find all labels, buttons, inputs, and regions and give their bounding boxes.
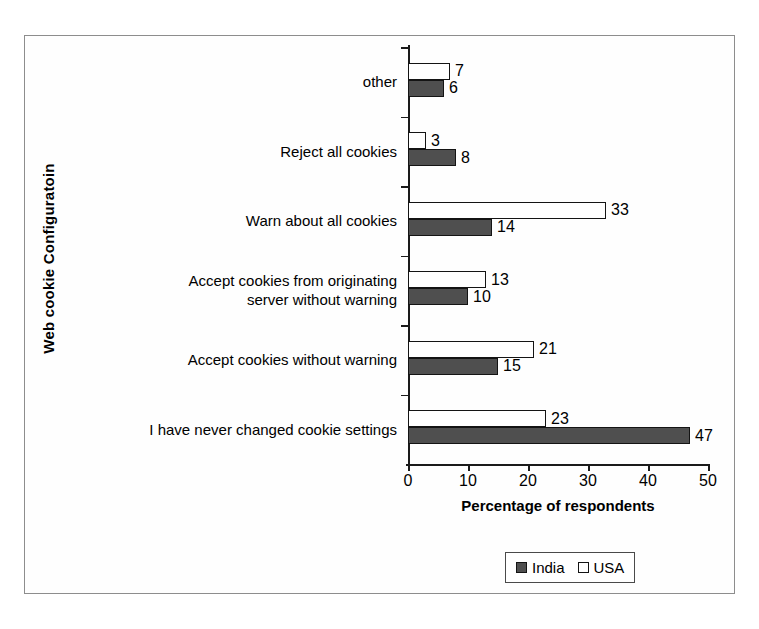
category-label: Accept cookies from originating server w… xyxy=(67,271,397,309)
legend-item-usa: USA xyxy=(578,559,625,576)
legend-label-usa: USA xyxy=(594,559,625,576)
bar-india: 8 xyxy=(408,149,456,166)
bar-india: 14 xyxy=(408,219,492,236)
x-axis-tick xyxy=(588,464,590,471)
bar-value-india: 8 xyxy=(461,149,470,167)
bar-usa: 21 xyxy=(408,341,534,358)
x-axis-tick xyxy=(408,464,410,471)
x-axis-tick-label: 0 xyxy=(388,472,428,490)
y-axis-tick xyxy=(401,395,408,397)
y-axis-title: Web cookie Configuratoin xyxy=(40,149,57,369)
category-group: I have never changed cookie settings2347 xyxy=(408,395,708,465)
category-group: other76 xyxy=(408,47,708,117)
y-axis-tick xyxy=(401,47,408,49)
x-axis-tick-label: 20 xyxy=(508,472,548,490)
bar-usa: 23 xyxy=(408,410,546,427)
legend-swatch-usa xyxy=(578,562,589,573)
bar-value-india: 15 xyxy=(503,357,521,375)
category-group: Warn about all cookies3314 xyxy=(408,186,708,256)
x-axis-tick-label: 30 xyxy=(568,472,608,490)
bar-india: 6 xyxy=(408,80,444,97)
bar-india: 10 xyxy=(408,288,468,305)
x-axis-tick xyxy=(528,464,530,471)
bar-usa: 13 xyxy=(408,271,486,288)
x-axis-tick xyxy=(708,464,710,471)
category-group: Reject all cookies38 xyxy=(408,117,708,187)
category-label: Accept cookies without warning xyxy=(67,350,397,369)
bar-value-usa: 21 xyxy=(539,340,557,358)
bar-value-usa: 3 xyxy=(431,132,440,150)
x-axis-tick xyxy=(468,464,470,471)
x-axis-tick-label: 10 xyxy=(448,472,488,490)
bar-india: 47 xyxy=(408,427,690,444)
bar-usa: 3 xyxy=(408,132,426,149)
category-label: Warn about all cookies xyxy=(67,211,397,230)
legend-label-india: India xyxy=(532,559,565,576)
category-label: I have never changed cookie settings xyxy=(67,420,397,439)
bar-value-india: 47 xyxy=(695,427,713,445)
y-axis-tick xyxy=(401,117,408,119)
bar-india: 15 xyxy=(408,358,498,375)
bar-value-india: 14 xyxy=(497,218,515,236)
bar-value-usa: 23 xyxy=(551,410,569,428)
bar-value-india: 10 xyxy=(473,288,491,306)
legend-swatch-india xyxy=(516,562,527,573)
legend-item-india: India xyxy=(516,559,565,576)
category-group: Accept cookies from originating server w… xyxy=(408,256,708,326)
y-axis-tick xyxy=(401,256,408,258)
category-group: Accept cookies without warning2115 xyxy=(408,325,708,395)
category-label: other xyxy=(67,72,397,91)
bar-value-india: 6 xyxy=(449,79,458,97)
bar-chart: Web cookie Configuratoin I have never ch… xyxy=(0,0,759,629)
plot-area: I have never changed cookie settings2347… xyxy=(408,47,708,464)
bar-usa: 7 xyxy=(408,63,450,80)
bar-value-usa: 7 xyxy=(455,62,464,80)
bar-value-usa: 13 xyxy=(491,271,509,289)
bar-usa: 33 xyxy=(408,202,606,219)
x-axis-line xyxy=(406,464,710,466)
bar-value-usa: 33 xyxy=(611,201,629,219)
x-axis-tick xyxy=(648,464,650,471)
x-axis-title: Percentage of respondents xyxy=(408,497,708,514)
y-axis-tick xyxy=(401,186,408,188)
chart-legend: India USA xyxy=(505,552,635,583)
y-axis-tick xyxy=(401,325,408,327)
category-label: Reject all cookies xyxy=(67,142,397,161)
x-axis-tick-label: 40 xyxy=(628,472,668,490)
x-axis-tick-label: 50 xyxy=(688,472,728,490)
